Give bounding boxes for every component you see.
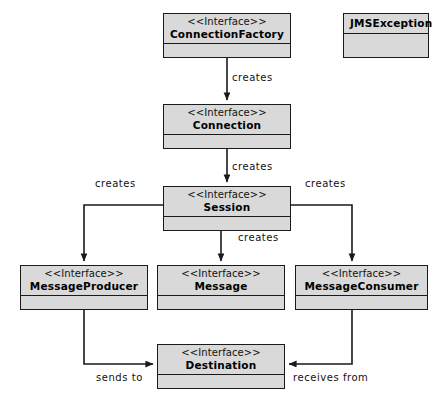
stereotype-label: <<Interface>>	[166, 189, 288, 201]
class-box-header-message-consumer: <<Interface>>MessageConsumer	[296, 266, 427, 296]
class-box-header-connection: <<Interface>>Connection	[164, 105, 290, 135]
edge-label-session-creates-message: creates	[238, 232, 279, 243]
stereotype-label: <<Interface>>	[166, 16, 288, 28]
class-box-connection-factory[interactable]: <<Interface>>ConnectionFactory	[163, 13, 291, 58]
class-name-label: Destination	[160, 359, 282, 371]
class-box-body-connection-factory	[164, 44, 290, 54]
edge-session-creates-consumer	[291, 205, 352, 261]
class-box-body-destination	[158, 375, 284, 385]
class-box-header-jms-exception: JMSException	[344, 14, 428, 34]
class-box-message[interactable]: <<Interface>>Message	[157, 265, 285, 310]
class-box-body-jms-exception	[344, 34, 428, 44]
class-box-jms-exception[interactable]: JMSException	[343, 13, 429, 58]
class-box-message-consumer[interactable]: <<Interface>>MessageConsumer	[295, 265, 428, 310]
edge-label-producer-sends-to-destination: sends to	[96, 372, 143, 383]
class-box-body-message-producer	[21, 296, 147, 306]
edge-label-session-creates-producer: creates	[95, 178, 136, 189]
class-name-label: Message	[160, 280, 282, 292]
class-box-session[interactable]: <<Interface>>Session	[163, 186, 291, 231]
class-name-label: MessageConsumer	[298, 280, 425, 292]
class-name-label: MessageProducer	[23, 280, 145, 292]
edge-consumer-receives-from-destination	[289, 310, 352, 364]
class-box-header-message: <<Interface>>Message	[158, 266, 284, 296]
class-name-label: Connection	[166, 119, 288, 131]
stereotype-label: <<Interface>>	[160, 268, 282, 280]
class-box-message-producer[interactable]: <<Interface>>MessageProducer	[20, 265, 148, 310]
class-name-label: JMSException	[350, 17, 422, 29]
stereotype-label: <<Interface>>	[298, 268, 425, 280]
class-name-label: Session	[166, 201, 288, 213]
class-box-header-destination: <<Interface>>Destination	[158, 345, 284, 375]
stereotype-label: <<Interface>>	[23, 268, 145, 280]
stereotype-label: <<Interface>>	[160, 347, 282, 359]
edge-label-session-creates-consumer: creates	[305, 178, 346, 189]
edge-producer-sends-to-destination	[84, 310, 153, 364]
class-box-connection[interactable]: <<Interface>>Connection	[163, 104, 291, 149]
uml-class-diagram: <<Interface>>ConnectionFactoryJMSExcepti…	[0, 0, 439, 401]
class-box-destination[interactable]: <<Interface>>Destination	[157, 344, 285, 389]
edge-session-creates-producer	[84, 205, 163, 261]
class-box-header-session: <<Interface>>Session	[164, 187, 290, 217]
class-box-body-connection	[164, 135, 290, 145]
stereotype-label: <<Interface>>	[166, 107, 288, 119]
edge-label-connection-creates-session: creates	[232, 161, 273, 172]
edge-label-factory-creates-connection: creates	[232, 72, 273, 83]
edge-label-consumer-receives-from-destination: receives from	[293, 372, 368, 383]
class-box-body-message-consumer	[296, 296, 427, 306]
class-box-header-message-producer: <<Interface>>MessageProducer	[21, 266, 147, 296]
class-box-body-session	[164, 217, 290, 227]
class-box-header-connection-factory: <<Interface>>ConnectionFactory	[164, 14, 290, 44]
class-name-label: ConnectionFactory	[166, 28, 288, 40]
class-box-body-message	[158, 296, 284, 306]
